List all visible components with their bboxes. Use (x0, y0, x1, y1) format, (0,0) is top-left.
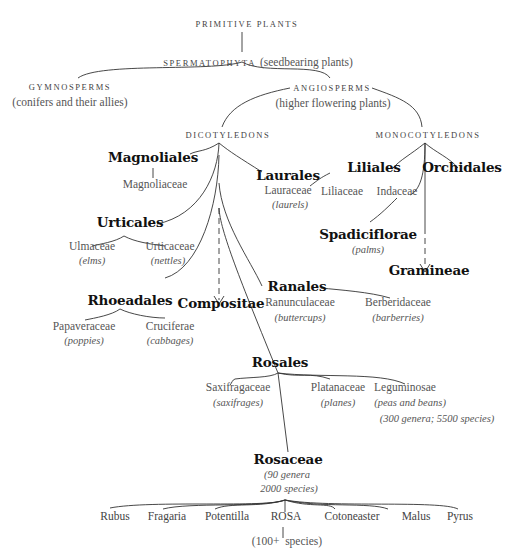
genus-rubus: Rubus (100, 510, 129, 523)
node-orchidales: Orchidales (422, 160, 502, 176)
node-dicotyledons: DICOTYLEDONS (186, 131, 271, 141)
node-spadiciflorae: Spadiciflorae (319, 227, 417, 243)
genus-potentilla: Potentilla (205, 510, 249, 523)
node-ranales: Ranales (268, 279, 327, 295)
papaveraceae-common: (poppies) (64, 335, 104, 347)
node-spermatophyta: SPERMATOPHYTA (seedbearing plants) (163, 52, 353, 70)
node-papaveraceae: Papaveraceae (53, 320, 116, 333)
leguminosae-count: (300 genera; 5500 species) (380, 413, 495, 425)
node-angiosperms: ANGIOSPERMS (293, 84, 371, 94)
saxifragaceae-common: (saxifrages) (213, 397, 263, 409)
node-lauraceae: Lauraceae (264, 184, 311, 197)
ranunculaceae-common: (buttercups) (275, 312, 326, 324)
genus-rosa: ROSA (271, 510, 302, 523)
node-urticales: Urticales (97, 215, 164, 231)
node-cruciferae: Cruciferae (146, 320, 195, 333)
cruciferae-common: (cabbages) (147, 335, 194, 347)
node-berberidaceae: Berberidaceae (365, 296, 431, 309)
node-indaceae: Indaceae (377, 185, 418, 198)
node-leguminosae: Leguminosae (374, 381, 436, 394)
node-ranunculaceae: Ranunculaceae (265, 296, 335, 309)
genus-cotoneaster: Cotoneaster (325, 510, 380, 523)
leguminosae-common: (peas and beans) (374, 397, 446, 409)
rosa-species-count: (100+ species) (252, 535, 322, 548)
node-ulmaceae: Ulmaceae (69, 240, 115, 253)
node-magnoliales: Magnoliales (108, 150, 198, 166)
node-rosales: Rosales (252, 355, 309, 371)
gymnosperms-note: (conifers and their allies) (12, 96, 127, 109)
lauraceae-common: (laurels) (272, 199, 308, 211)
node-rosaceae: Rosaceae (253, 452, 322, 468)
genus-pyrus: Pyrus (447, 510, 473, 523)
genus-malus: Malus (402, 510, 431, 523)
node-primitive-plants: PRIMITIVE PLANTS (196, 20, 299, 30)
node-rhoeadales: Rhoeadales (88, 293, 173, 309)
genus-fragaria: Fragaria (148, 510, 186, 523)
berberidaceae-common: (barberries) (372, 312, 423, 324)
node-monocotyledons: MONOCOTYLEDONS (375, 131, 480, 141)
urticaceae-common: (nettles) (151, 255, 185, 267)
ulmaceae-common: (elms) (79, 255, 105, 267)
rosaceae-count-1: (90 genera (264, 469, 310, 481)
taxonomy-diagram: PRIMITIVE PLANTS SPERMATOPHYTA (seedbear… (0, 0, 526, 560)
node-liliaceae: Liliaceae (321, 185, 363, 198)
node-saxifragaceae: Saxifragaceae (206, 381, 270, 394)
node-laurales: Laurales (256, 168, 320, 184)
node-gymnosperms: GYMNOSPERMS (29, 83, 111, 93)
node-urticaceae: Urticaceae (145, 240, 194, 253)
spadiciflorae-common: (palms) (352, 244, 384, 256)
angiosperms-note: (higher flowering plants) (276, 97, 391, 110)
spermatophyta-note: (seedbearing plants) (260, 56, 353, 68)
node-compositae: Compositae (178, 296, 265, 312)
node-platanaceae: Platanaceae (311, 381, 365, 394)
platanaceae-common: (planes) (321, 397, 355, 409)
spermatophyta-label: SPERMATOPHYTA (163, 58, 256, 68)
node-liliales: Liliales (347, 160, 400, 176)
node-gramineae: Gramineae (389, 263, 470, 279)
node-magnoliaceae: Magnoliaceae (123, 178, 188, 191)
rosaceae-count-2: 2000 species) (260, 483, 317, 495)
